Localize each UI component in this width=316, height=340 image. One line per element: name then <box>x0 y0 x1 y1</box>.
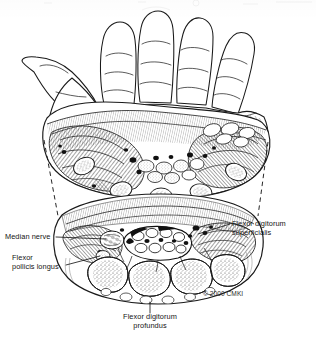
label-median-nerve-text: Median nerve <box>5 232 50 241</box>
label-flexor-digitorum-superficialis: Flexor digitorum superficialis <box>232 219 286 237</box>
label-flexor-digitorum-profundus-line2: profundus <box>95 321 205 330</box>
median-nerve-structure <box>100 231 124 249</box>
label-flexor-pollicis-longus-line2: pollicis longus <box>12 262 59 271</box>
label-median-nerve: Median nerve <box>5 232 50 241</box>
label-flexor-pollicis-longus-line1: Flexor <box>12 253 59 262</box>
hand-anatomy-illustration <box>0 0 316 340</box>
label-flexor-digitorum-superficialis-line2: superficialis <box>232 228 286 237</box>
label-flexor-digitorum-profundus: Flexor digitorum profundus <box>95 312 205 330</box>
label-flexor-pollicis-longus: Flexor pollicis longus <box>12 253 59 271</box>
label-flexor-digitorum-superficialis-line1: Flexor digitorum <box>232 219 286 228</box>
label-flexor-digitorum-profundus-line1: Flexor digitorum <box>95 312 205 321</box>
copyright-notice: © 2000 CMKI <box>203 289 243 298</box>
carpal-tunnel-tendon-bundle <box>124 226 192 260</box>
anatomical-figure: Median nerve Flexor pollicis longus Flex… <box>0 0 316 340</box>
